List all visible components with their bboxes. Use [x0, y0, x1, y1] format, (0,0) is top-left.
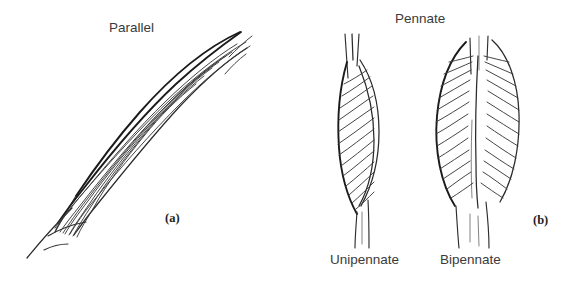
bipennate-label: Bipennate — [440, 253, 501, 267]
parallel-muscle-group — [27, 32, 252, 258]
unipennate-muscle-group — [338, 34, 379, 248]
muscle-architecture-figure: Parallel Pennate Unipennate Bipennate (a… — [0, 0, 579, 281]
figure-artwork — [0, 0, 579, 281]
panel-label-b: (b) — [533, 214, 548, 227]
bipennate-muscle-group — [436, 36, 519, 248]
pennate-heading: Pennate — [395, 12, 445, 26]
unipennate-label: Unipennate — [330, 253, 399, 267]
panel-label-a: (a) — [165, 212, 180, 225]
parallel-heading: Parallel — [109, 21, 154, 35]
